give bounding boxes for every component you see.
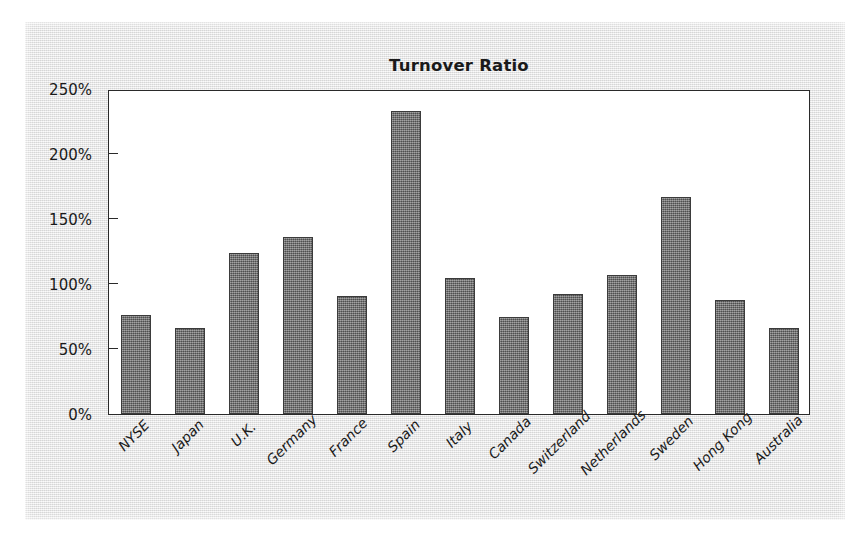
y-axis-tick: [109, 348, 118, 349]
x-axis-tick-label: Australia: [751, 412, 806, 467]
bar: [175, 328, 205, 414]
bar: [121, 315, 151, 414]
bar: [553, 294, 583, 414]
x-axis-tick-label: Japan: [168, 416, 207, 455]
x-axis-tick-label: Hong Kong: [690, 408, 755, 473]
bar: [337, 296, 367, 414]
bar: [391, 111, 421, 414]
x-axis-tick-label: Spain: [384, 416, 423, 455]
bar: [607, 275, 637, 414]
plot-area: [108, 90, 810, 415]
x-axis-tick-label: Italy: [443, 418, 476, 451]
x-axis-tick-label: Canada: [485, 413, 534, 462]
bar: [661, 197, 691, 414]
y-axis-tick: [109, 283, 118, 284]
y-axis-tick-label: 150%: [49, 211, 92, 229]
x-axis-tick-label: Sweden: [646, 413, 696, 463]
chart-title: Turnover Ratio: [108, 56, 810, 75]
bar: [445, 278, 475, 415]
figure: Turnover Ratio 250%200%150%100%50%0% NYS…: [0, 0, 867, 542]
y-axis-tick-label: 50%: [59, 341, 92, 359]
y-axis-tick-labels: 250%200%150%100%50%0%: [0, 90, 100, 415]
bar: [715, 300, 745, 414]
x-axis-tick-label: U.K.: [228, 418, 259, 449]
y-axis-tick: [109, 218, 118, 219]
x-axis-tick-label: France: [326, 415, 371, 460]
bar: [229, 253, 259, 414]
bar: [283, 237, 313, 414]
y-axis-tick-label: 200%: [49, 146, 92, 164]
y-axis-tick-label: 0%: [68, 406, 92, 424]
y-axis-tick: [109, 153, 118, 154]
x-axis-tick-label: NYSE: [115, 417, 152, 454]
bar: [499, 317, 529, 415]
bar: [769, 328, 799, 414]
x-axis-tick-labels: NYSEJapanU.K.GermanyFranceSpainItalyCana…: [108, 415, 810, 525]
x-axis-tick-label: Germany: [263, 411, 320, 468]
y-axis-tick-label: 100%: [49, 276, 92, 294]
y-axis-tick-label: 250%: [49, 81, 92, 99]
